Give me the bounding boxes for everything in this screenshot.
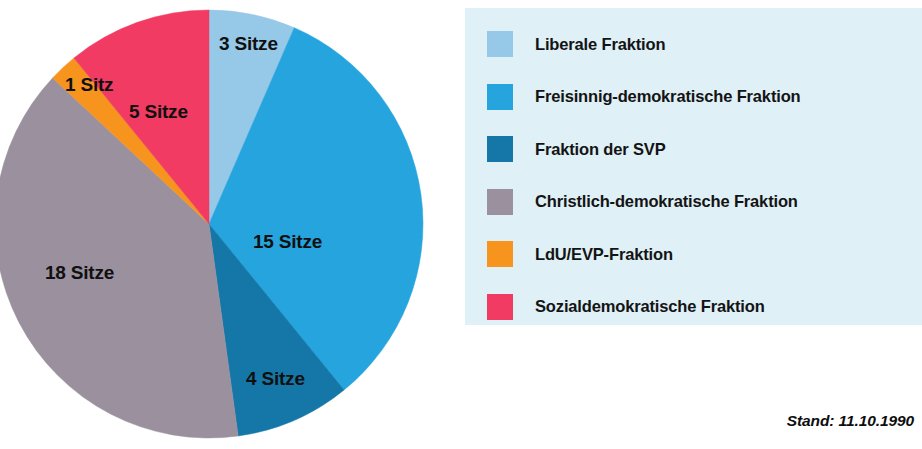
stand-date-label: Stand: 11.10.1990 bbox=[787, 412, 914, 430]
legend-color-swatch bbox=[487, 31, 513, 57]
legend-item: Freisinnig-demokratische Fraktion bbox=[487, 83, 801, 111]
legend-item-label: LdU/EVP-Fraktion bbox=[535, 245, 673, 264]
legend-color-swatch bbox=[487, 189, 513, 215]
legend-item: Sozialdemokratische Fraktion bbox=[487, 293, 765, 321]
pie-label-fdp: 15 Sitze bbox=[253, 231, 322, 253]
legend-item: Fraktion der SVP bbox=[487, 135, 666, 163]
legend-color-swatch bbox=[487, 84, 513, 110]
legend-color-swatch bbox=[487, 241, 513, 267]
pie-label-svp: 4 Sitze bbox=[246, 368, 305, 390]
pie-label-ldu-evp: 1 Sitz bbox=[65, 74, 113, 96]
pie-label-cvp: 18 Sitze bbox=[45, 262, 114, 284]
legend-color-swatch bbox=[487, 294, 513, 320]
pie-chart: 3 Sitze 15 Sitze 4 Sitze 18 Sitze 1 Sitz… bbox=[0, 0, 440, 449]
legend-item-label: Fraktion der SVP bbox=[535, 140, 666, 159]
legend-item: LdU/EVP-Fraktion bbox=[487, 240, 673, 268]
legend-item: Liberale Fraktion bbox=[487, 30, 665, 58]
pie-label-sp: 5 Sitze bbox=[129, 101, 188, 123]
legend-item-label: Liberale Fraktion bbox=[535, 35, 665, 54]
pie-label-liberale: 3 Sitze bbox=[219, 33, 278, 55]
legend-panel: Liberale FraktionFreisinnig-demokratisch… bbox=[465, 8, 922, 325]
legend-item-label: Freisinnig-demokratische Fraktion bbox=[535, 87, 801, 106]
legend-item-label: Sozialdemokratische Fraktion bbox=[535, 297, 765, 316]
legend-item: Christlich-demokratische Fraktion bbox=[487, 188, 798, 216]
pie-chart-svg bbox=[0, 0, 440, 449]
legend-color-swatch bbox=[487, 136, 513, 162]
pie-slice-group bbox=[0, 10, 423, 438]
legend-item-label: Christlich-demokratische Fraktion bbox=[535, 192, 798, 211]
